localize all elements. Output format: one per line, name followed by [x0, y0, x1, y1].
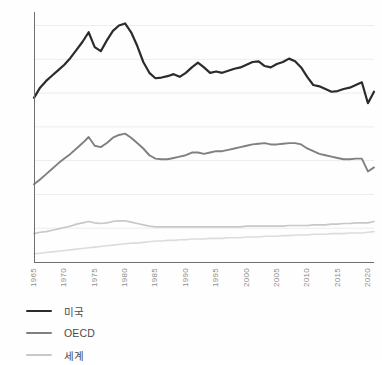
x-tick-label: 1965	[30, 268, 38, 287]
x-tick-label: 1970	[60, 268, 68, 287]
legend-label: OECD	[64, 327, 95, 339]
legend-label: 세계	[64, 348, 84, 363]
legend-swatch-icon	[26, 310, 52, 313]
legend-swatch-icon	[26, 354, 52, 356]
legend-item[interactable]: 세계	[26, 344, 206, 365]
x-tick-label: 1990	[182, 268, 190, 287]
x-tick-label: 1975	[91, 268, 99, 287]
x-tick-label: 1995	[212, 268, 220, 287]
chart-legend: 미국OECD세계	[26, 300, 206, 365]
x-tick-label: 1985	[151, 268, 159, 287]
y-axis-spine	[34, 12, 35, 263]
x-tick-label: 2005	[273, 268, 281, 287]
legend-swatch-icon	[26, 332, 52, 334]
x-axis-labels: 1965197019751980198519901995200020052010…	[34, 264, 374, 304]
legend-item[interactable]: OECD	[26, 322, 206, 344]
legend-label: 미국	[64, 304, 84, 319]
x-tick-label: 2020	[364, 268, 372, 287]
x-tick-label: 2000	[243, 268, 251, 287]
legend-item[interactable]: 미국	[26, 300, 206, 322]
x-tick-label: 2010	[303, 268, 311, 287]
y-axis-labels: 00,51,01,52,02,53,03,5	[34, 12, 374, 262]
x-axis-spine	[34, 262, 374, 263]
x-tick-label: 1980	[121, 268, 129, 287]
x-tick-label: 2015	[334, 268, 342, 287]
